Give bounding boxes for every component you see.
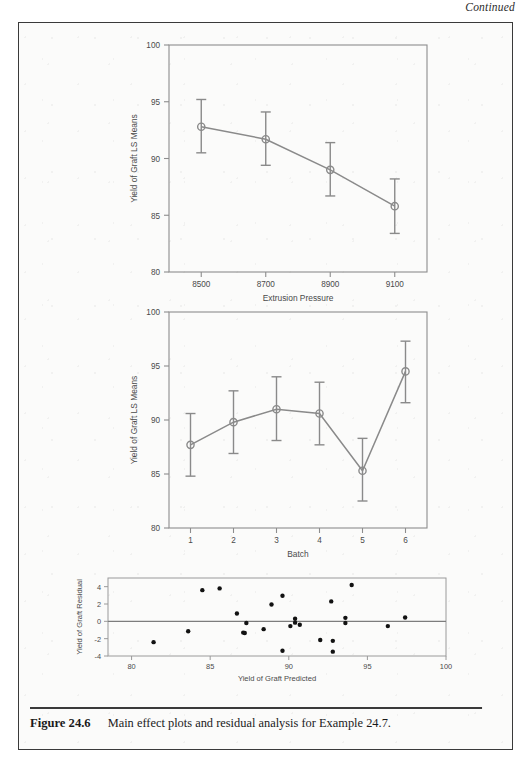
figure-number: Figure 24.6 bbox=[30, 716, 91, 730]
scatter-point bbox=[200, 588, 204, 592]
scatter-point bbox=[217, 586, 221, 590]
chart-batch: 80859095100123456BatchYield of Graft LS … bbox=[100, 300, 460, 565]
scatter-point bbox=[261, 627, 265, 631]
chart-residual: -4-202480859095100Yield of Graft Predict… bbox=[60, 566, 460, 696]
scatter-point bbox=[243, 631, 247, 635]
x-axis-tick-label: 6 bbox=[403, 536, 408, 545]
scatter-point bbox=[331, 639, 335, 643]
x-axis-label: Batch bbox=[287, 549, 309, 559]
chart-residual-canvas: -4-202480859095100Yield of Graft Predict… bbox=[60, 566, 460, 696]
scatter-point bbox=[331, 649, 335, 653]
scatter-point bbox=[403, 615, 407, 619]
scatter-point bbox=[280, 594, 284, 598]
scatter-point bbox=[343, 621, 347, 625]
y-axis-tick-label: 85 bbox=[151, 470, 161, 479]
x-axis-tick-label: 8700 bbox=[257, 280, 276, 289]
scatter-point bbox=[329, 599, 333, 603]
y-axis-tick-label: 100 bbox=[146, 41, 160, 50]
data-line bbox=[201, 127, 395, 206]
x-axis-label: Yield of Graft Predicted bbox=[238, 674, 316, 683]
scatter-point bbox=[186, 629, 190, 633]
figure-caption-text: Main effect plots and residual analysis … bbox=[108, 716, 391, 730]
x-axis-tick-label: 95 bbox=[363, 662, 371, 671]
scatter-point bbox=[298, 623, 302, 627]
x-axis-tick-label: 85 bbox=[206, 662, 214, 671]
scatter-point bbox=[235, 611, 239, 615]
y-axis-tick-label: 2 bbox=[97, 600, 101, 609]
x-axis-tick-label: 90 bbox=[285, 662, 293, 671]
x-axis-tick-label: 100 bbox=[440, 662, 452, 671]
x-axis-tick-label: 8500 bbox=[192, 280, 211, 289]
y-axis-tick-label: 80 bbox=[151, 268, 161, 277]
y-axis-tick-label: 95 bbox=[151, 98, 161, 107]
x-axis-tick-label: 1 bbox=[188, 536, 193, 545]
scatter-point bbox=[280, 649, 284, 653]
scatter-point bbox=[151, 640, 155, 644]
plot-frame bbox=[169, 312, 427, 528]
figure-page: Continued 808590951008500870089009100Ext… bbox=[0, 0, 531, 773]
scatter-point bbox=[318, 638, 322, 642]
chart-extrusion-pressure-canvas: 808590951008500870089009100Extrusion Pre… bbox=[100, 30, 460, 310]
y-axis-tick-label: -4 bbox=[94, 652, 101, 661]
x-axis-tick-label: 5 bbox=[360, 536, 365, 545]
y-axis-label: Yield of Graft LS Means bbox=[129, 114, 139, 203]
y-axis-tick-label: 95 bbox=[151, 362, 161, 371]
x-axis-tick-label: 2 bbox=[231, 536, 236, 545]
y-axis-tick-label: 90 bbox=[151, 155, 161, 164]
scatter-point bbox=[293, 617, 297, 621]
x-axis-tick-label: 9100 bbox=[386, 280, 405, 289]
y-axis-label: Yield of Graft LS Means bbox=[129, 376, 139, 465]
scatter-point bbox=[244, 621, 248, 625]
caption-divider bbox=[30, 707, 482, 709]
scatter-point bbox=[293, 620, 297, 624]
y-axis-tick-label: 4 bbox=[97, 583, 101, 592]
x-axis-tick-label: 4 bbox=[317, 536, 322, 545]
y-axis-tick-label: 85 bbox=[151, 212, 161, 221]
plot-frame bbox=[108, 578, 446, 656]
scatter-point bbox=[269, 602, 273, 606]
chart-extrusion-pressure: 808590951008500870089009100Extrusion Pre… bbox=[100, 30, 460, 310]
y-axis-label: Yield of Graft Residual bbox=[75, 579, 84, 655]
x-axis-tick-label: 3 bbox=[274, 536, 279, 545]
chart-batch-canvas: 80859095100123456BatchYield of Graft LS … bbox=[100, 300, 460, 565]
scatter-point bbox=[288, 624, 292, 628]
y-axis-tick-label: 90 bbox=[151, 416, 161, 425]
y-axis-tick-label: -2 bbox=[94, 635, 101, 644]
plot-frame bbox=[169, 45, 427, 272]
scatter-point bbox=[343, 616, 347, 620]
y-axis-tick-label: 100 bbox=[146, 308, 160, 317]
scatter-point bbox=[349, 583, 353, 587]
x-axis-tick-label: 8900 bbox=[321, 280, 340, 289]
y-axis-tick-label: 0 bbox=[97, 617, 101, 626]
figure-caption: Figure 24.6Main effect plots and residua… bbox=[30, 716, 490, 731]
scatter-point bbox=[386, 624, 390, 628]
data-line bbox=[191, 371, 406, 470]
continued-label: Continued bbox=[465, 1, 515, 13]
y-axis-tick-label: 80 bbox=[151, 524, 161, 533]
x-axis-tick-label: 80 bbox=[127, 662, 135, 671]
